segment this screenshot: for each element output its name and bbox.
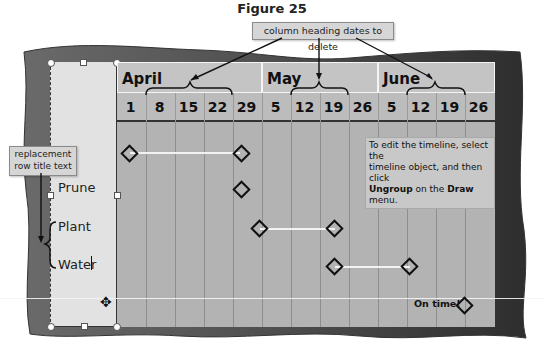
callout-arrows <box>0 0 544 350</box>
